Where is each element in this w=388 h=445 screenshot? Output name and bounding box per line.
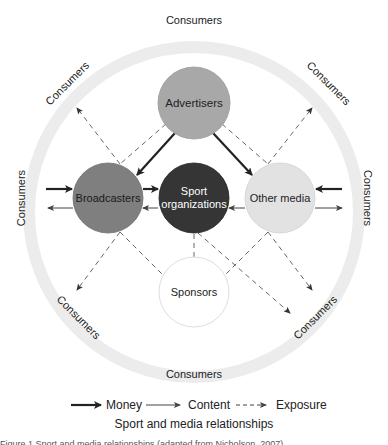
node-sport-organizations: Sport organizations — [159, 163, 229, 233]
consumers-label-top: Consumers — [166, 14, 223, 26]
legend-content: Content — [188, 398, 231, 412]
consumers-label-bottom: Consumers — [166, 368, 223, 380]
figure-title: Sport and media relationships — [0, 417, 388, 431]
sport-organizations-label-line1: Sport — [181, 185, 207, 197]
node-broadcasters: Broadcasters — [73, 163, 143, 233]
consumers-label-right: Consumers — [362, 170, 374, 227]
legend-exposure: Exposure — [276, 398, 327, 412]
advertisers-label: Advertisers — [165, 97, 223, 109]
figure-caption: Figure 1 Sport and media relationships (… — [0, 437, 300, 445]
node-advertisers: Advertisers — [158, 67, 230, 139]
node-sponsors: Sponsors — [159, 257, 229, 327]
sponsors-label: Sponsors — [171, 286, 218, 298]
legend-money: Money — [106, 398, 142, 412]
legend: Money Content Exposure — [0, 396, 388, 416]
sport-media-diagram: Advertisers Broadcasters Sport organizat… — [0, 0, 388, 396]
sport-organizations-label-line2: organizations — [161, 198, 227, 210]
consumers-label-left: Consumers — [15, 169, 27, 226]
broadcasters-label: Broadcasters — [76, 192, 141, 204]
node-other-media: Other media — [245, 163, 315, 233]
consumers-label-bottom-right: Consumers — [291, 293, 340, 342]
other-media-label: Other media — [250, 192, 311, 204]
